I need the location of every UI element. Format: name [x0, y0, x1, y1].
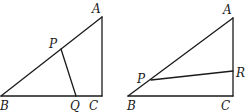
segment-ab	[1, 17, 102, 96]
segment-pr	[151, 71, 233, 80]
vertex-label-p: P	[48, 37, 58, 51]
vertex-label-a: A	[91, 2, 101, 16]
diagram-canvas: APBQC APRBC	[0, 0, 247, 112]
vertex-label-c: C	[221, 99, 230, 112]
vertex-label-r: R	[235, 66, 245, 80]
segment-pq	[61, 49, 76, 96]
vertex-label-c: C	[89, 99, 98, 112]
vertex-label-b: B	[0, 99, 9, 112]
vertex-label-b: B	[126, 99, 136, 112]
vertex-label-a: A	[222, 3, 232, 17]
triangle-figure-left: APBQC	[0, 2, 102, 112]
vertex-label-p: P	[136, 72, 146, 86]
vertex-label-q: Q	[70, 99, 80, 112]
triangle-figure-right: APRBC	[126, 3, 245, 112]
